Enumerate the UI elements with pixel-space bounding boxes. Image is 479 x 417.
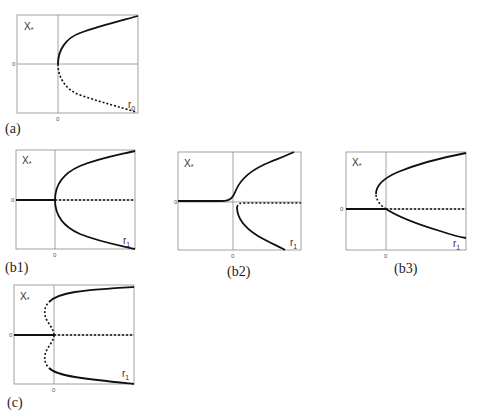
unstable-upper-fold <box>45 302 54 335</box>
unstable-fold-branch <box>376 194 386 209</box>
y-axis-label: X* <box>22 155 32 167</box>
x-axis-label: r1 <box>122 368 129 381</box>
panel-a: X* r0 0 0 (a) <box>5 15 138 137</box>
y-axis-label: X* <box>352 157 362 169</box>
panel-label: (b3) <box>394 261 418 277</box>
panel-label: (b2) <box>227 264 251 280</box>
panel-b1: X* r1 0 0 (b1) <box>5 150 135 276</box>
panel-label: (a) <box>5 121 21 137</box>
x-origin-tick: 0 <box>53 252 57 258</box>
stable-upper-branch <box>49 287 134 302</box>
x-origin-tick: 0 <box>52 387 56 393</box>
panel-b2: X* r1 0 0 (b2) <box>174 152 301 280</box>
x-axis-label: r0 <box>128 99 135 112</box>
x-axis-label: r1 <box>453 238 460 251</box>
plot-frame <box>346 152 466 250</box>
y-origin-tick: 0 <box>174 199 178 205</box>
x-axis-label: r1 <box>290 237 297 250</box>
stable-lower-branch <box>237 207 285 250</box>
y-axis-label: X* <box>20 291 30 303</box>
y-axis-label: X* <box>184 158 194 170</box>
y-axis-label: X* <box>24 21 34 33</box>
y-origin-tick: 0 <box>340 206 344 212</box>
x-origin-tick: 0 <box>56 116 60 122</box>
x-origin-tick: 0 <box>231 253 235 259</box>
stable-lower-branch <box>386 209 466 238</box>
panel-c: X* r1 0 0 (c) <box>7 285 134 411</box>
unstable-lower-fold <box>45 335 54 368</box>
y-origin-tick: 0 <box>12 61 16 67</box>
unstable-branch <box>237 203 301 207</box>
y-origin-tick: 0 <box>11 197 15 203</box>
stable-upper-branch <box>376 153 466 194</box>
y-origin-tick: 0 <box>9 332 13 338</box>
unstable-branch <box>58 64 136 112</box>
x-origin-tick: 0 <box>384 253 388 259</box>
stable-branch <box>58 16 138 64</box>
panel-b3: X* r1 0 0 (b3) <box>340 152 466 277</box>
stable-upper-branch <box>55 151 135 200</box>
bifurcation-figure: X* r0 0 0 (a) X* r1 0 0 (b1) X* r1 0 0 (… <box>0 0 479 417</box>
panel-label: (b1) <box>5 260 29 276</box>
stable-upper-branch <box>178 152 294 201</box>
panel-label: (c) <box>7 395 23 411</box>
